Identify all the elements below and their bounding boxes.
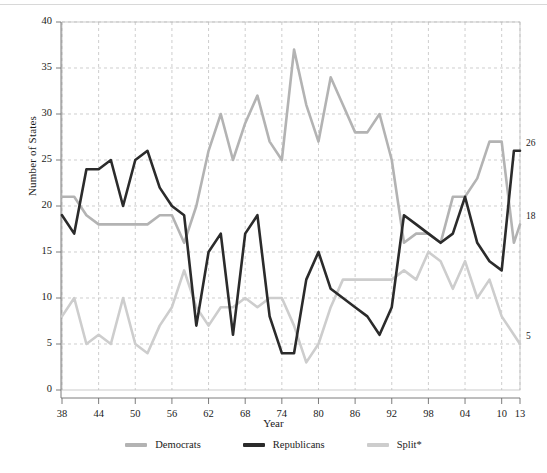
x-axis-tick-label: 13 [505, 408, 535, 419]
x-axis-tick-label: 86 [340, 408, 370, 419]
y-axis-tick-label: 10 [26, 291, 52, 302]
legend-label-split: Split* [397, 440, 422, 451]
legend-item-split[interactable]: Split* [367, 440, 422, 451]
y-axis-tick-label: 25 [26, 153, 52, 164]
chart-figure: Number of States Year 0510152025303540 3… [0, 0, 547, 473]
y-axis-tick-label: 40 [26, 15, 52, 26]
legend-swatch-democrats [125, 443, 147, 447]
y-axis-tick-label: 0 [26, 383, 52, 394]
x-axis-tick-label: 80 [303, 408, 333, 419]
y-axis-tick-label: 30 [26, 107, 52, 118]
y-axis-tick-label: 15 [26, 245, 52, 256]
democrats-end-value: 18 [526, 211, 536, 221]
x-axis-tick-label: 98 [413, 408, 443, 419]
legend-label-democrats: Democrats [155, 440, 200, 451]
legend-item-democrats[interactable]: Democrats [125, 440, 200, 451]
republicans-end-value: 26 [526, 138, 536, 148]
series-line-split [62, 252, 520, 362]
chart-legend: Democrats Republicans Split* [0, 440, 547, 451]
x-axis-tick-label: 56 [157, 408, 187, 419]
x-axis-tick-label: 44 [84, 408, 114, 419]
x-axis-tick-label: 68 [230, 408, 260, 419]
legend-item-republicans[interactable]: Republicans [243, 440, 325, 451]
series-line-democrats [62, 50, 520, 243]
x-axis-tick-label: 62 [194, 408, 224, 419]
y-axis-tick-label: 35 [26, 61, 52, 72]
x-axis-tick-label: 92 [377, 408, 407, 419]
y-axis-tick-label: 20 [26, 199, 52, 210]
y-axis-tick-label: 5 [26, 337, 52, 348]
x-axis-tick-label: 04 [450, 408, 480, 419]
legend-label-republicans: Republicans [273, 440, 325, 451]
chart-plot-svg [0, 0, 547, 473]
legend-swatch-split [367, 443, 389, 447]
x-axis-tick-label: 74 [267, 408, 297, 419]
x-axis-tick-label: 50 [120, 408, 150, 419]
split-end-value: 5 [526, 331, 531, 341]
legend-swatch-republicans [243, 443, 265, 447]
x-axis-tick-label: 38 [47, 408, 77, 419]
